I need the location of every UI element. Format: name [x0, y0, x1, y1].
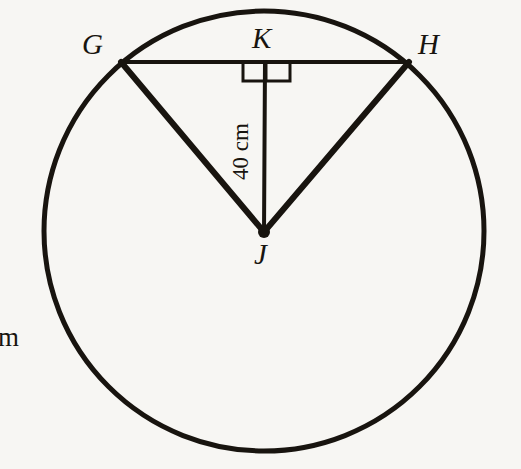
diagram-canvas [0, 0, 521, 469]
perpendicular-kj-segment [264, 62, 265, 232]
vertex-label-h: H [418, 30, 439, 59]
center-point-dot [258, 226, 270, 238]
radius-hj-segment [264, 62, 409, 232]
vertex-label-j: J [254, 240, 267, 269]
segment-length-label-kj: 40 cm [229, 92, 252, 212]
right-angle-marker-icon [243, 62, 290, 81]
cropped-text-fragment: cm [0, 324, 19, 351]
vertex-label-k: K [252, 24, 271, 53]
vertex-label-g: G [82, 30, 103, 59]
circle-geometry-figure: G H K J 40 cm cm [0, 0, 521, 469]
